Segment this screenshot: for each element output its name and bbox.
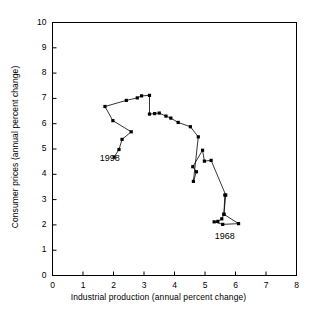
y-tick-label: 10 (27, 17, 47, 27)
y-axis-title-container: Consumer prices (annual percent change) (10, 22, 24, 272)
data-point-label: 1968 (215, 231, 235, 241)
y-tick-label: 9 (27, 42, 47, 52)
x-tick-label: 7 (256, 280, 276, 290)
x-tick-label: 3 (134, 280, 154, 290)
x-tick-label: 1 (73, 280, 93, 290)
y-tick-label: 8 (27, 67, 47, 77)
y-tick-label: 2 (27, 219, 47, 229)
x-tick-label: 2 (104, 280, 124, 290)
y-tick-label: 5 (27, 143, 47, 153)
y-axis-title: Consumer prices (annual percent change) (10, 22, 20, 272)
series-data-points (103, 94, 240, 226)
x-tick-label: 8 (287, 280, 307, 290)
y-tick-label: 3 (27, 194, 47, 204)
scatter-plot-canvas (0, 0, 317, 318)
data-point-label: 1998 (100, 153, 120, 163)
x-axis-title: Industrial production (annual percent ch… (0, 292, 317, 302)
y-tick-label: 7 (27, 92, 47, 102)
plot-frame (53, 23, 297, 276)
y-tick-label: 4 (27, 168, 47, 178)
x-tick-label: 4 (165, 280, 185, 290)
chart-figure: 012345678 012345678910 Industrial produc… (0, 0, 317, 318)
x-tick-label: 5 (195, 280, 215, 290)
series-connector-line (105, 95, 239, 224)
y-tick-label: 0 (27, 270, 47, 280)
x-tick-label: 6 (226, 280, 246, 290)
x-tick-label: 0 (43, 280, 63, 290)
y-tick-label: 1 (27, 244, 47, 254)
axis-ticks (53, 23, 297, 276)
y-tick-label: 6 (27, 118, 47, 128)
